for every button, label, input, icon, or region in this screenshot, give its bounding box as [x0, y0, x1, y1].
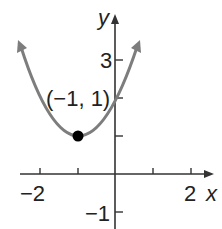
tick-label-x-neg2: −2 [20, 181, 45, 206]
vertex-point [73, 131, 84, 142]
tick-label-x-2: 2 [184, 181, 196, 206]
vertex-label: (−1, 1) [46, 86, 110, 111]
tick-label-y-neg1: −1 [85, 201, 110, 226]
x-axis-arrow-icon [204, 170, 214, 178]
y-ticks [115, 60, 123, 212]
graph: y x 3 −1 −2 2 (−1, 1) [0, 0, 222, 229]
y-axis-arrow-icon [111, 14, 119, 24]
tick-label-y-3: 3 [100, 48, 112, 73]
x-axis-label: x [205, 181, 218, 206]
y-axis-label: y [96, 5, 111, 30]
plot-canvas: y x 3 −1 −2 2 (−1, 1) [0, 0, 222, 229]
